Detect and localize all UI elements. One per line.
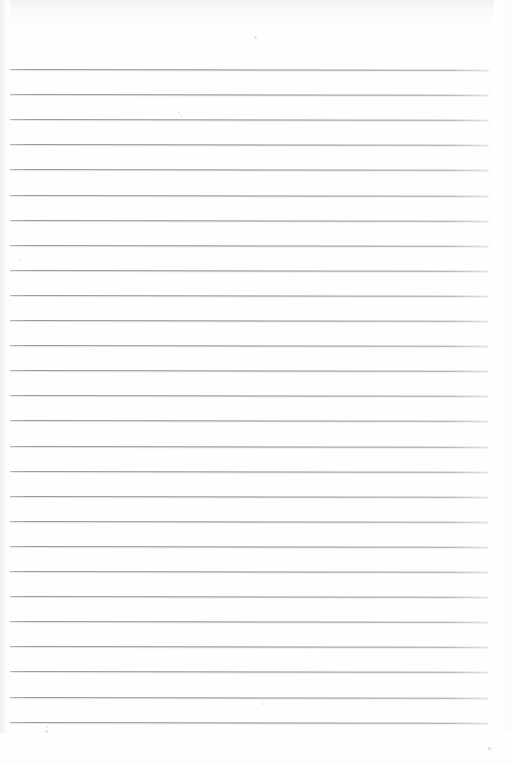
ruled-line [1, 697, 488, 699]
scanned-page [0, 0, 512, 763]
ruled-line [1, 646, 488, 648]
ruled-line [2, 295, 489, 297]
ruled-line [2, 94, 489, 96]
ruled-line [1, 596, 488, 598]
ruled-line [2, 220, 489, 222]
ruled-line [2, 119, 489, 121]
ruled-line [1, 571, 488, 573]
ruled-line [1, 521, 488, 523]
ruled-line [2, 144, 489, 146]
ruled-line [2, 270, 489, 272]
ruled-line [1, 496, 488, 498]
ruled-line [1, 621, 488, 623]
ruled-lines-layer [0, 0, 512, 763]
ruled-line [1, 345, 488, 347]
ruled-line [2, 195, 489, 197]
ruled-line [1, 546, 488, 548]
ruled-line [1, 395, 488, 397]
ruled-line [1, 722, 488, 724]
ruled-line [1, 671, 488, 673]
ruled-line [1, 471, 488, 473]
ruled-line [1, 446, 488, 448]
ruled-line [1, 370, 488, 372]
ruled-line [2, 245, 489, 247]
ruled-line [2, 69, 489, 71]
ruled-line [2, 169, 489, 171]
ruled-line [2, 320, 489, 322]
ruled-line [1, 420, 488, 422]
